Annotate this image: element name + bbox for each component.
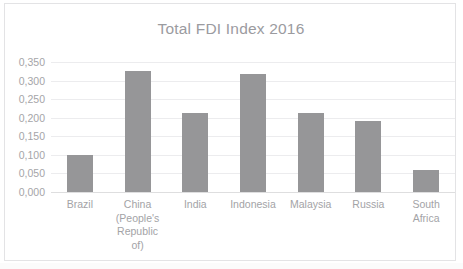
y-axis-tick-label: 0,200 <box>19 112 45 124</box>
x-axis-category-label: Russia <box>340 198 398 212</box>
chart-title: Total FDI Index 2016 <box>5 20 457 38</box>
bar[interactable] <box>67 155 93 192</box>
x-axis-label-line: Africa <box>397 212 455 226</box>
y-axis-tick-label: 0,250 <box>19 93 45 105</box>
bar[interactable] <box>182 113 208 192</box>
bar[interactable] <box>125 71 151 192</box>
bar[interactable] <box>413 170 439 192</box>
y-axis-tick-label: 0,300 <box>19 75 45 87</box>
x-axis-label-line: China <box>109 198 167 212</box>
x-axis-category-label: Brazil <box>51 198 109 212</box>
y-axis-tick-label: 0,100 <box>19 149 45 161</box>
x-axis-label-line: Russia <box>340 198 398 212</box>
x-axis-category-label: SouthAfrica <box>397 198 455 225</box>
bar-slot <box>51 62 109 192</box>
bar-slot <box>340 62 398 192</box>
x-axis-label-line: South <box>397 198 455 212</box>
gridline <box>51 192 455 193</box>
bar-slot <box>224 62 282 192</box>
bar-series <box>51 62 455 192</box>
x-axis-category-label: India <box>166 198 224 212</box>
x-axis-category-labels: BrazilChina(People'sRepublicof)IndiaIndo… <box>51 198 455 268</box>
y-axis-tick-label: 0,350 <box>19 56 45 68</box>
x-axis-label-line: Indonesia <box>224 198 282 212</box>
x-axis-label-line: Brazil <box>51 198 109 212</box>
bar-slot <box>109 62 167 192</box>
x-axis-category-label: Malaysia <box>282 198 340 212</box>
scan-edge-artifact <box>0 263 463 269</box>
bar-slot <box>166 62 224 192</box>
bar[interactable] <box>355 121 381 192</box>
chart-container: Total FDI Index 2016 0,3500,3000,2500,20… <box>4 3 456 261</box>
y-axis-tick-label: 0,000 <box>19 186 45 198</box>
x-axis-label-line: India <box>166 198 224 212</box>
y-axis-tick-label: 0,150 <box>19 130 45 142</box>
x-axis-label-line: Republic <box>109 225 167 239</box>
x-axis-label-line: of) <box>109 239 167 253</box>
bar-slot <box>282 62 340 192</box>
bar[interactable] <box>240 74 266 192</box>
x-axis-category-label: China(People'sRepublicof) <box>109 198 167 252</box>
x-axis-label-line: (People's <box>109 212 167 226</box>
plot-area: 0,3500,3000,2500,2000,1500,1000,0500,000 <box>51 62 455 196</box>
bar-slot <box>397 62 455 192</box>
x-axis-label-line: Malaysia <box>282 198 340 212</box>
x-axis-category-label: Indonesia <box>224 198 282 212</box>
y-axis-tick-label: 0,050 <box>19 167 45 179</box>
bar[interactable] <box>298 113 324 192</box>
